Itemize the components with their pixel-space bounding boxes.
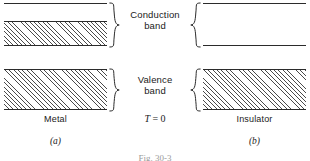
metal-conduction-band-filled-region <box>4 21 107 46</box>
metal-valence-band-filled-region <box>4 69 107 110</box>
metal-conduction-band-brace <box>109 2 120 48</box>
insulator-conduction-band-top-edge <box>203 3 306 4</box>
valence-band-label: Valence band <box>120 74 190 96</box>
panel-a-sublabel: (a) <box>4 136 107 147</box>
panel-b-material-label: Insulator <box>203 114 306 125</box>
figure-caption: Fig. 30-3 <box>105 153 205 161</box>
insulator-conduction-band-bottom-edge <box>203 45 306 46</box>
temperature-value: = 0 <box>150 113 166 124</box>
panel-a-material-label: Metal <box>4 114 107 125</box>
conduction-band-label: Conduction band <box>120 9 190 31</box>
insulator-valence-band-brace <box>190 68 201 112</box>
conduction-band-label-line1: Conduction <box>130 9 180 20</box>
metal-valence-band-brace <box>109 68 120 112</box>
temperature-label: T = 0 <box>120 113 190 125</box>
panel-b-sublabel: (b) <box>203 136 306 147</box>
valence-band-label-line1: Valence <box>138 74 173 85</box>
valence-band-label-line2: band <box>144 85 166 96</box>
insulator-conduction-band-brace <box>190 2 201 48</box>
insulator-valence-band-filled-region <box>203 69 306 110</box>
metal-conduction-band-top-edge <box>4 3 107 4</box>
energy-band-diagram-figure: Metal (a) Conduction band Valence band T… <box>0 0 310 161</box>
conduction-band-label-line2: band <box>144 20 166 31</box>
